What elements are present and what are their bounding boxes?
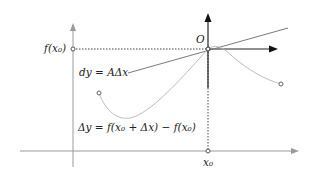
delta-y-label: Δy = f(x₀ + Δx) − f(x₀) <box>78 122 196 133</box>
x0-point <box>206 149 210 153</box>
main-x-axis-arrow-icon <box>291 148 299 154</box>
curve-end-point <box>279 82 283 86</box>
local-y-axis-arrow-icon <box>205 13 212 22</box>
f-x0-point <box>71 47 75 51</box>
diagram-canvas <box>0 0 315 173</box>
dy-label: dy = AΔx <box>79 67 128 78</box>
local-x-axis-arrow-icon <box>269 46 278 53</box>
main-y-axis-arrow-icon <box>70 23 76 31</box>
f-x0-label: f(x₀) <box>44 43 66 54</box>
origin-point <box>206 47 210 51</box>
function-curve <box>99 46 281 118</box>
origin-label: O <box>196 34 205 45</box>
x0-label: x₀ <box>203 157 213 168</box>
curve-start-point <box>97 91 101 95</box>
